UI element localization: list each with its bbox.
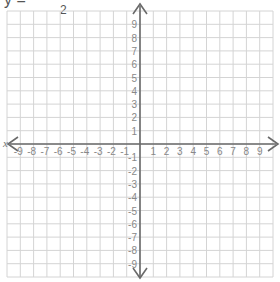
y-tick-label: 7 [131, 46, 137, 57]
x-tick-label: -2 [107, 146, 116, 157]
y-tick-label: -5 [128, 206, 137, 217]
y-tick-label: -6 [128, 219, 137, 230]
x-tick-label: 3 [177, 146, 183, 157]
y-tick-label: 5 [131, 73, 137, 84]
y-tick-label: 1 [131, 126, 137, 137]
x-axis-label: x [2, 137, 8, 149]
x-tick-label: -9 [14, 146, 23, 157]
y-tick-label: -1 [128, 152, 137, 163]
y-tick-label: -4 [128, 192, 137, 203]
x-tick-label: -7 [40, 146, 49, 157]
y-tick-label: -7 [128, 232, 137, 243]
y-tick-label: 8 [131, 33, 137, 44]
y-tick-label: -8 [128, 245, 137, 256]
x-tick-label: 7 [230, 146, 236, 157]
x-tick-label: 9 [257, 146, 263, 157]
x-tick-label: 5 [204, 146, 210, 157]
y-tick-label: 2 [131, 112, 137, 123]
x-tick-label: -3 [94, 146, 103, 157]
x-tick-label: -4 [80, 146, 89, 157]
x-tick-label: 4 [190, 146, 196, 157]
y-tick-label: -9 [128, 259, 137, 270]
x-tick-label: -6 [54, 146, 63, 157]
y-tick-label: 9 [131, 19, 137, 30]
y-tick-label: 3 [131, 99, 137, 110]
x-tick-label: 1 [151, 146, 157, 157]
x-tick-label: 8 [244, 146, 250, 157]
y-tick-label: -3 [128, 179, 137, 190]
x-tick-label: 2 [164, 146, 170, 157]
y-tick-label: -2 [128, 166, 137, 177]
y-tick-label: 6 [131, 59, 137, 70]
x-tick-label: -8 [27, 146, 36, 157]
x-tick-label: -5 [67, 146, 76, 157]
coordinate-plane[interactable]: -9-8-7-6-5-4-3-2-1123456789987654321-1-2… [0, 0, 280, 282]
y-tick-label: 4 [131, 86, 137, 97]
x-tick-label: 6 [217, 146, 223, 157]
